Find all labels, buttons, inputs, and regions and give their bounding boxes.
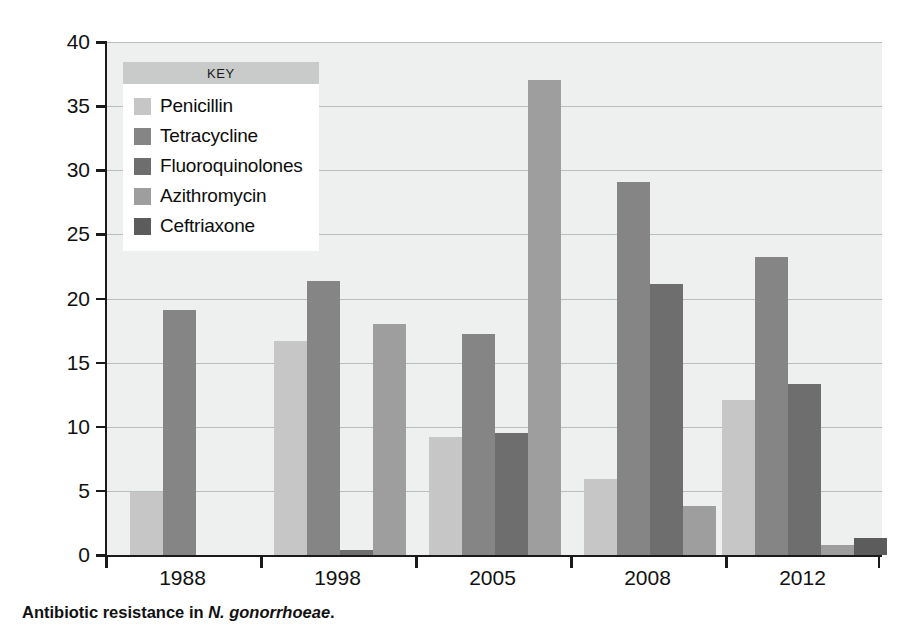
bar <box>650 284 683 555</box>
y-axis-tick-label: 25 <box>30 222 90 246</box>
y-axis-tick-label: 5 <box>30 479 90 503</box>
bar <box>307 281 340 555</box>
bar <box>617 182 650 555</box>
bar <box>528 80 561 555</box>
bar <box>821 545 854 555</box>
figure-caption: Antibiotic resistance in N. gonorrhoeae. <box>22 603 335 622</box>
caption-species-name: N. gonorrhoeae <box>208 603 330 621</box>
bar <box>373 324 406 555</box>
y-axis-tick-label: 15 <box>30 351 90 375</box>
bar <box>722 400 755 555</box>
bar <box>130 492 163 555</box>
y-axis-tick-label: 20 <box>30 287 90 311</box>
legend: KEY PenicillinTetracyclineFluoroquinolon… <box>123 62 319 251</box>
legend-items: PenicillinTetracyclineFluoroquinolonesAz… <box>123 84 319 251</box>
x-axis-tick-label: 1988 <box>159 566 206 590</box>
legend-item: Azithromycin <box>123 181 319 211</box>
y-axis-tick <box>96 41 107 44</box>
x-axis-tick-label: 2012 <box>779 566 826 590</box>
x-axis-tick-label: 2005 <box>469 566 516 590</box>
legend-swatch-icon <box>134 98 151 115</box>
x-axis-tick-labels: 19881998200520082012 <box>105 566 880 596</box>
bar <box>854 538 887 555</box>
y-axis-tick <box>96 169 107 172</box>
figure: Percentage of resistant isolates 0510152… <box>0 0 918 644</box>
bar <box>163 310 196 555</box>
y-axis-title: Percentage of resistant isolates <box>2 0 30 112</box>
legend-item-label: Fluoroquinolones <box>160 155 303 177</box>
x-axis-tick-label: 1998 <box>314 566 361 590</box>
legend-item: Ceftriaxone <box>123 211 319 241</box>
y-axis-tick <box>96 105 107 108</box>
y-axis-tick <box>96 426 107 429</box>
legend-item-label: Penicillin <box>160 95 233 117</box>
caption-prefix: Antibiotic resistance in <box>22 603 208 621</box>
caption-suffix: . <box>330 603 335 621</box>
legend-item: Penicillin <box>123 91 319 121</box>
y-axis-tick-label: 40 <box>30 30 90 54</box>
legend-title: KEY <box>123 62 319 84</box>
legend-swatch-icon <box>134 128 151 145</box>
legend-swatch-icon <box>134 218 151 235</box>
y-axis-tick <box>96 298 107 301</box>
bar <box>755 257 788 555</box>
legend-item-label: Azithromycin <box>160 185 266 207</box>
y-axis-tick-labels: 0510152025303540 <box>30 0 90 644</box>
legend-item-label: Tetracycline <box>160 125 258 147</box>
bar <box>274 341 307 555</box>
y-axis-tick-label: 30 <box>30 158 90 182</box>
y-axis-tick-label: 35 <box>30 94 90 118</box>
legend-item: Tetracycline <box>123 121 319 151</box>
bar <box>429 437 462 555</box>
y-axis-tick <box>96 362 107 365</box>
y-axis-tick-label: 10 <box>30 415 90 439</box>
bar <box>462 334 495 555</box>
bar <box>495 433 528 555</box>
bar <box>788 384 821 555</box>
x-axis-tick-label: 2008 <box>624 566 671 590</box>
legend-item-label: Ceftriaxone <box>160 215 255 237</box>
y-axis-tick <box>96 490 107 493</box>
y-axis-tick <box>96 233 107 236</box>
legend-item: Fluoroquinolones <box>123 151 319 181</box>
y-axis-title-wrapper: Percentage of resistant isolates <box>0 42 30 555</box>
legend-swatch-icon <box>134 158 151 175</box>
legend-swatch-icon <box>134 188 151 205</box>
bar <box>584 479 617 555</box>
y-axis-tick-label: 0 <box>30 543 90 567</box>
bar <box>683 506 716 555</box>
